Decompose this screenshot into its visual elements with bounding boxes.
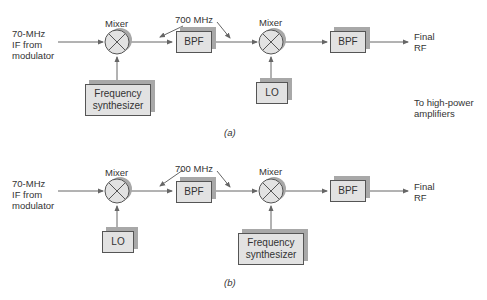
freq-label-b: 700 MHz: [175, 163, 213, 174]
freq-synth-a: Frequency synthesizer: [85, 84, 151, 116]
input-label-b: 70-MHz IF from modulator: [12, 178, 54, 211]
freq-label-a: 700 MHz: [175, 14, 213, 25]
lo-a: LO: [256, 82, 288, 104]
caption-a: (a): [224, 127, 236, 138]
mixer2-label-b: Mixer: [259, 166, 282, 177]
freq-synth-b: Frequency synthesizer: [238, 233, 304, 265]
mixer1-label-b: Mixer: [105, 167, 128, 178]
bpf2-b: BPF: [330, 180, 366, 202]
bpf1-b: BPF: [176, 181, 212, 203]
output-label-b: Final RF: [414, 181, 435, 203]
caption-b: (b): [224, 277, 236, 288]
mixer-icon: [259, 177, 286, 203]
mixer-icon: [105, 28, 132, 54]
mixer-icon: [259, 28, 286, 54]
bpf1-a: BPF: [176, 31, 212, 53]
bpf2-a: BPF: [330, 31, 366, 53]
lo-b: LO: [102, 231, 134, 253]
input-label-a: 70-MHz IF from modulator: [12, 28, 54, 61]
output-label-a: Final RF: [414, 31, 435, 53]
mixer1-label-a: Mixer: [105, 18, 128, 29]
mixer-icon: [105, 177, 132, 203]
note-a: To high-power amplifiers: [414, 97, 474, 119]
mixer2-label-a: Mixer: [259, 17, 282, 28]
